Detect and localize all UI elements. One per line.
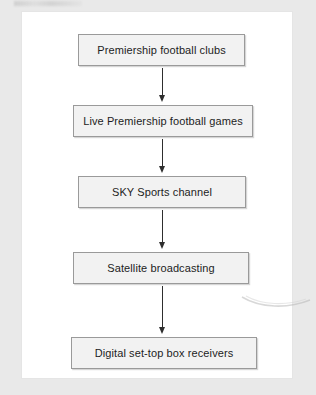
arrow-shaft [162, 210, 163, 242]
page-curl-artifact [240, 294, 312, 312]
flow-arrow-4 [157, 286, 169, 334]
flowchart: Premiership football clubs Live Premiers… [22, 12, 292, 378]
arrow-head-icon [159, 95, 165, 102]
flow-node-satellite-broadcasting: Satellite broadcasting [73, 252, 249, 284]
document-page: Premiership football clubs Live Premiers… [22, 12, 292, 378]
flow-arrow-3 [157, 210, 169, 249]
flow-node-sky-sports-channel: SKY Sports channel [78, 176, 246, 208]
arrow-head-icon [159, 242, 165, 249]
flow-arrow-1 [157, 68, 169, 102]
flow-node-live-premiership-football-games: Live Premiership football games [73, 105, 253, 137]
flow-node-label: Digital set-top box receivers [95, 347, 234, 359]
arrow-shaft [162, 286, 163, 327]
flow-node-premiership-football-clubs: Premiership football clubs [78, 34, 245, 66]
scan-header-artifact [14, 1, 82, 6]
flow-node-digital-set-top-box-receivers: Digital set-top box receivers [71, 337, 257, 369]
arrow-shaft [162, 68, 163, 95]
flow-node-label: Live Premiership football games [83, 115, 243, 127]
arrow-head-icon [159, 166, 165, 173]
arrow-head-icon [159, 327, 165, 334]
arrow-shaft [162, 139, 163, 166]
flow-node-label: Satellite broadcasting [107, 262, 214, 274]
flow-node-label: SKY Sports channel [112, 186, 212, 198]
flow-node-label: Premiership football clubs [97, 44, 226, 56]
flow-arrow-2 [157, 139, 169, 173]
